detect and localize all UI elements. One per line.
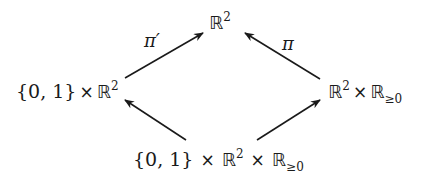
node-top: ℝ2 [209,11,231,32]
times-symbol: × [353,82,367,102]
superscript: 2 [236,147,244,161]
edge-label-pi: π [282,35,294,53]
arrow-bottom-to-left [125,100,186,140]
node-left: {0, 1}×ℝ2 [16,80,119,101]
reals-symbol: ℝ [272,149,286,170]
subscript: ≥0 [286,160,304,174]
node-bottom: {0, 1}×ℝ2×ℝ≥0 [133,148,304,173]
times-symbol: × [79,82,93,102]
times-symbol: × [200,150,214,170]
set-braces: {0, 1} [133,148,193,170]
superscript: 2 [223,10,231,24]
reals-symbol: ℝ [222,149,236,170]
reals-symbol: ℝ [209,12,223,33]
superscript: 2 [342,79,350,93]
subscript: ≥0 [384,92,402,106]
reals-symbol: ℝ [370,81,384,102]
times-symbol: × [251,150,265,170]
set-braces: {0, 1} [16,80,76,102]
superscript: 2 [111,79,119,93]
arrow-pi-prime [125,33,203,78]
reals-symbol: ℝ [97,81,111,102]
arrow-bottom-to-right [257,100,320,140]
edge-label-pi-prime: π′ [144,32,160,50]
node-right: ℝ2×ℝ≥0 [328,80,402,105]
reals-symbol: ℝ [328,81,342,102]
